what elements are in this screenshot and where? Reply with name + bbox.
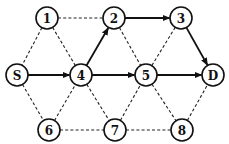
node-label: 4 [77,69,85,83]
node-S: S [6,64,28,86]
edge-4-7-dashed [87,84,109,120]
node-D: D [202,64,224,86]
network-graph: 123S45D678 [0,0,229,144]
edge-3-D-arrow [186,28,207,65]
node-7: 7 [104,119,126,141]
node-label: 1 [43,12,51,26]
edge-8-D-dashed [187,85,207,121]
node-5: 5 [135,64,157,86]
node-4: 4 [70,64,92,86]
node-1: 1 [36,7,58,29]
node-label: 5 [142,69,150,83]
edge-3-5-dashed [152,27,175,65]
edge-1-4-dashed [53,27,76,65]
edge-5-8-dashed [152,84,176,121]
node-2: 2 [103,7,125,29]
node-label: D [208,69,218,83]
edge-7-5-dashed [120,85,140,121]
edge-6-4-dashed [55,85,76,121]
node-label: S [13,69,22,83]
edge-2-5-dashed [119,28,140,66]
edges-layer [22,18,208,130]
node-8: 8 [171,119,193,141]
edge-1-S-dashed [22,28,42,66]
node-label: 7 [111,124,119,138]
node-label: 2 [110,12,118,26]
node-3: 3 [170,7,192,29]
node-label: 3 [177,12,185,26]
nodes-layer: 123S45D678 [6,7,224,141]
edge-S-6-dashed [23,85,44,121]
node-6: 6 [38,119,60,141]
node-label: 6 [45,124,53,138]
edge-4-2-arrow [87,28,109,66]
node-label: 8 [178,124,186,138]
